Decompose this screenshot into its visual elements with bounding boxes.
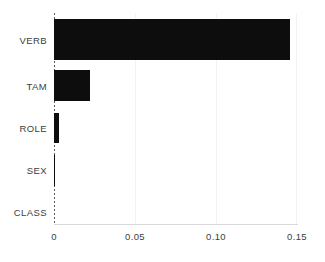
bar-tam[interactable]: [54, 70, 90, 101]
x-axis-line: [54, 224, 298, 225]
bar-band-class: [54, 197, 297, 227]
ytick-label-tam: TAM: [0, 82, 47, 92]
bar-band-tam: [54, 70, 297, 101]
ytick-text-role: ROLE: [20, 123, 47, 134]
bar-chart: VERB TAM ROLE SEX CLASS 0 0.05 0.10 0.15: [0, 0, 325, 262]
xtick-label-0.15: 0.15: [287, 231, 307, 242]
bar-sex[interactable]: [54, 155, 55, 186]
plot-area: [54, 13, 297, 224]
bar-verb[interactable]: [54, 19, 290, 60]
xtick-label-0: 0: [51, 231, 57, 242]
xtick-label-0.10: 0.10: [206, 231, 226, 242]
ytick-text-tam: TAM: [26, 81, 47, 92]
xtick-label-0.05: 0.05: [125, 231, 145, 242]
ytick-text-sex: SEX: [27, 165, 47, 176]
bar-role[interactable]: [54, 113, 59, 143]
bar-band-verb: [54, 19, 297, 60]
ytick-label-verb: VERB: [0, 36, 47, 46]
ytick-label-class: CLASS: [0, 208, 47, 218]
ytick-label-sex: SEX: [0, 166, 47, 176]
ytick-label-role: ROLE: [0, 124, 47, 134]
ytick-text-class: CLASS: [14, 207, 47, 218]
bar-band-role: [54, 113, 297, 143]
ytick-text-verb: VERB: [20, 35, 47, 46]
bar-band-sex: [54, 155, 297, 186]
